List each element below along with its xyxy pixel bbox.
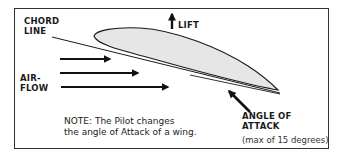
angle-of-attack-label-line1: ANGLE OF [242, 111, 291, 121]
angle-of-attack-label: ANGLE OF ATTACK [242, 111, 291, 131]
pilot-note-line2: the angle of Attack of a wing. [64, 127, 197, 138]
chord-line-label: CHORD LINE [24, 16, 59, 36]
chord-line-label-line2: LINE [24, 26, 59, 36]
pilot-note-line1: NOTE: The Pilot changes [64, 116, 197, 127]
pilot-note: NOTE: The Pilot changes the angle of Att… [64, 116, 197, 139]
angle-of-attack-label-line2: ATTACK [242, 121, 291, 131]
chord-line-label-line1: CHORD [24, 16, 59, 26]
airflow-label-line1: AIR- [20, 73, 48, 83]
lift-label: LIFT [178, 20, 199, 30]
angle-of-attack-arrow-icon [229, 91, 250, 112]
airfoil-shape [94, 28, 278, 90]
angle-limit-note: (max of 15 degrees) [242, 135, 328, 145]
airflow-label: AIR- FLOW [20, 73, 48, 93]
airflow-label-line2: FLOW [20, 83, 48, 93]
